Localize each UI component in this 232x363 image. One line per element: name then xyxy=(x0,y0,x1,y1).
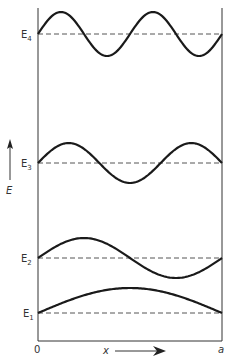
origin-label: 0 xyxy=(34,344,40,355)
energy-axis-label: E xyxy=(6,185,13,196)
wavefunction-e1 xyxy=(38,288,222,313)
x-axis-label: x xyxy=(102,345,109,356)
label-e4: E4 xyxy=(21,29,32,43)
label-e2: E2 xyxy=(21,253,32,267)
label-e3: E3 xyxy=(21,158,32,172)
particle-in-box-diagram: E4 E3 E2 E1 E 0 a x xyxy=(0,0,232,363)
box-width-label: a xyxy=(218,344,224,355)
label-e1: E1 xyxy=(23,308,34,322)
